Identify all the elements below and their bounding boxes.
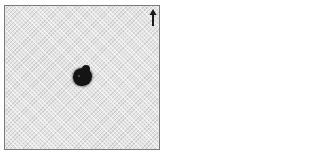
orientation-arrow-up-icon — [149, 9, 157, 26]
